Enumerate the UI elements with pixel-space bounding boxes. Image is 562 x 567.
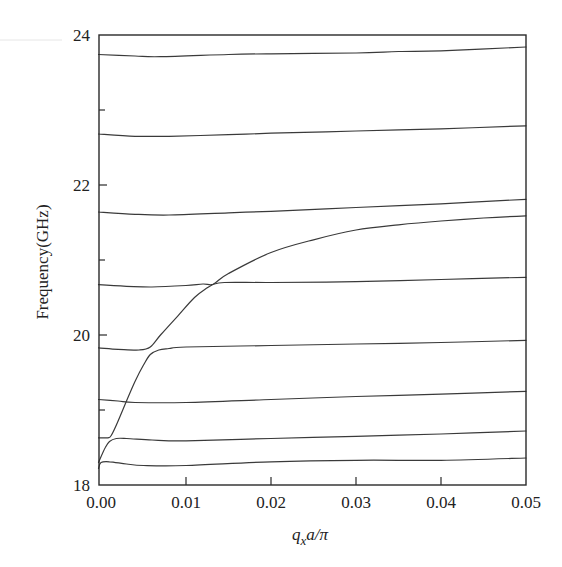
dispersion-curve-branch-3 <box>99 340 527 438</box>
y-tick-label: 20 <box>73 326 90 345</box>
x-tick-label: 0.01 <box>171 493 201 512</box>
dispersion-curve-branch-5 <box>99 216 527 350</box>
dispersion-curve-branch-8 <box>99 126 527 137</box>
x-tick-label: 0.02 <box>256 493 286 512</box>
y-tick-label: 24 <box>73 26 91 45</box>
x-tick-label: 0.00 <box>86 493 116 512</box>
chart: 0.000.010.020.030.040.05 18202224 qxa/π … <box>0 0 562 567</box>
dispersion-curves <box>99 47 527 469</box>
x-tick-label: 0.05 <box>511 493 541 512</box>
dispersion-curve-branch-2 <box>99 431 527 463</box>
y-tick-label: 18 <box>73 476 90 495</box>
dispersion-curve-branch-9 <box>99 47 527 57</box>
dispersion-curve-branch-1 <box>99 458 527 469</box>
dispersion-curve-branch-4 <box>99 391 527 402</box>
dispersion-curve-branch-7 <box>99 199 527 215</box>
dispersion-curve-branch-6 <box>99 277 527 287</box>
y-axis-label: Frequency(GHz) <box>33 204 52 319</box>
x-tick-label: 0.04 <box>426 493 456 512</box>
x-axis-ticks: 0.000.010.020.030.040.05 <box>86 477 541 512</box>
y-tick-label: 22 <box>73 176 90 195</box>
x-axis-label: qxa/π <box>292 525 329 548</box>
plot-frame <box>99 35 526 485</box>
y-axis-ticks: 18202224 <box>73 26 107 495</box>
x-tick-label: 0.03 <box>341 493 371 512</box>
